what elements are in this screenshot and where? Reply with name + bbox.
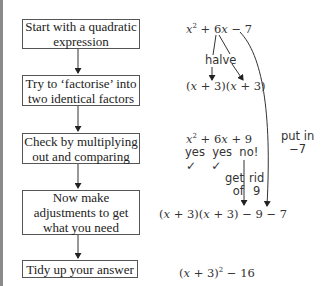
get-of-label: getof	[225, 172, 244, 198]
expression-expanded: x2 + 6x + 9	[186, 130, 252, 146]
expression-final: (x + 3)2 − 16	[179, 264, 255, 280]
rid-9-label: rid9	[249, 172, 264, 198]
halve-label: halve	[205, 54, 236, 67]
expression-original: x2 + 6x − 7	[186, 20, 252, 36]
expression-adjusted: (x + 3)(x + 3) − 9 − 7	[159, 208, 287, 221]
comparison-label: yes yes no!	[185, 146, 258, 159]
arrows-layer	[0, 0, 322, 286]
check-mark-icons: ✓ ✓	[186, 160, 221, 173]
put-in-label: put in−7	[281, 130, 314, 156]
expression-factors: (x + 3)(x + 3)	[186, 80, 266, 93]
